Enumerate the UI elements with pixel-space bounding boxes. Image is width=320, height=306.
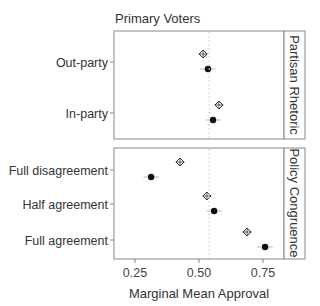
y-tick-label: Half agreement <box>23 198 109 212</box>
dot-marker <box>211 208 217 214</box>
panel-border <box>114 148 284 259</box>
x-tick-label: 0.50 <box>187 266 211 280</box>
dot-marker <box>148 174 154 180</box>
x-axis: 0.250.500.75 <box>123 259 275 280</box>
y-tick-label: Full agreement <box>25 234 109 248</box>
chart-title: Primary Voters <box>115 11 201 26</box>
dot-plot: Primary Voters Partisan Rhetoric Policy … <box>0 0 320 306</box>
y-tick-label: Full disagreement <box>9 164 109 178</box>
y-tick-label: In-party <box>66 107 109 121</box>
panel-border <box>114 31 284 139</box>
x-tick-label: 0.75 <box>251 266 275 280</box>
x-tick-label: 0.25 <box>123 266 147 280</box>
dot-marker <box>210 117 216 123</box>
strip-label: Partisan Rhetoric <box>287 35 302 135</box>
dot-marker <box>205 66 211 72</box>
strip-label: Policy Congruence <box>287 148 302 257</box>
x-axis-label: Marginal Mean Approval <box>129 286 269 301</box>
y-tick-label: Out-party <box>56 56 109 70</box>
dot-marker <box>262 244 268 250</box>
